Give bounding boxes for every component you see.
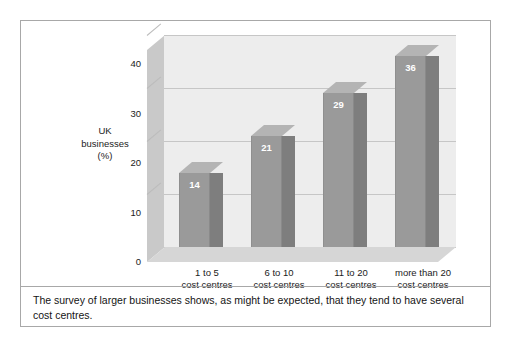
chart-left-wall [147,35,165,262]
bar-front-face [323,93,354,247]
y-axis-title-line-2: businesses [69,138,141,151]
bar-value-label: 21 [251,142,282,153]
bar-side-face [426,56,439,247]
bar-more-than-20[interactable]: 36 [395,35,426,247]
figure-frame: UK businesses (%) 0 10 20 30 40 [20,20,491,327]
x-label-line-2: cost centres [375,279,471,291]
figure-caption: The survey of larger businesses shows, a… [33,293,481,323]
y-tick-label-30: 30 [117,109,141,119]
bar-11-to-20[interactable]: 29 [323,35,354,247]
y-tick-label-0: 0 [117,257,141,267]
gridline-side-40 [147,24,161,36]
bar-side-face [354,93,367,247]
bar-value-label: 14 [179,179,210,190]
bar-side-face [210,173,223,247]
y-tick-label-40: 40 [117,59,141,69]
bar-chart: UK businesses (%) 0 10 20 30 40 [21,21,490,286]
y-tick-label-10: 10 [117,208,141,218]
bar-value-label: 36 [395,62,426,73]
y-axis-title-line-1: UK [69,125,141,138]
bar-1-to-5[interactable]: 14 [179,35,210,247]
bar-value-label: 29 [323,99,354,110]
bar-front-face [395,56,426,247]
y-tick-label-20: 20 [117,158,141,168]
bar-6-to-10[interactable]: 21 [251,35,282,247]
bar-side-face [282,136,295,247]
caption-divider [21,286,490,287]
plot-area: 14 21 29 36 [147,35,456,262]
x-label-line-1: more than 20 [375,267,471,279]
